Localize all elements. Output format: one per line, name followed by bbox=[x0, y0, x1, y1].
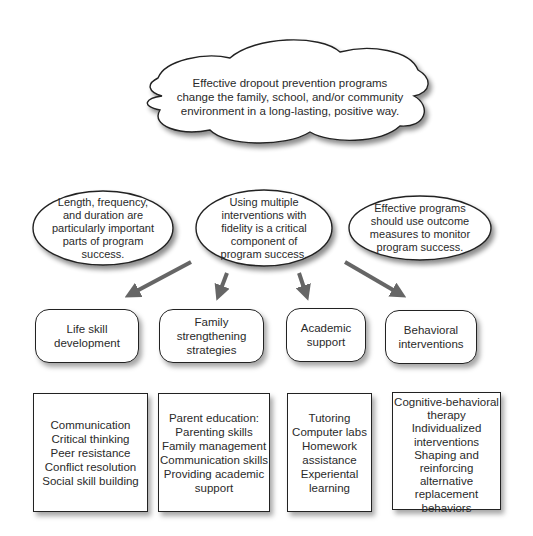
list-item: Peer resistance bbox=[51, 446, 131, 460]
list-item: Communication bbox=[51, 418, 131, 432]
list-item: Communication skills bbox=[160, 453, 268, 467]
list-item: Shaping and bbox=[414, 449, 479, 462]
list-life-skill: Communication Critical thinking Peer res… bbox=[33, 393, 148, 512]
oval-line: interventions with bbox=[222, 209, 307, 222]
list-item: reinforcing bbox=[420, 462, 474, 475]
list-item: Critical thinking bbox=[52, 432, 130, 446]
category-line: Life skill bbox=[54, 322, 120, 336]
list-item: Computer labs bbox=[292, 425, 367, 439]
list-item: Family management bbox=[162, 439, 266, 453]
list-item: interventions bbox=[414, 436, 479, 449]
list-item: Providing academic bbox=[164, 467, 264, 481]
oval-text-outcome-measures: Effective programs should use outcome me… bbox=[355, 200, 485, 256]
category-line: interventions bbox=[398, 337, 463, 351]
list-family: Parent education: Parenting skills Famil… bbox=[158, 393, 270, 512]
list-item: alternative bbox=[420, 475, 473, 488]
category-line: strengthening bbox=[177, 329, 247, 343]
oval-line: Length, frequency, bbox=[58, 196, 148, 209]
oval-line: program success. bbox=[377, 241, 464, 254]
category-line: support bbox=[301, 335, 352, 349]
list-item: Parent education: bbox=[169, 411, 259, 425]
list-behavioral: Cognitive-behavioral therapy Individuali… bbox=[392, 392, 501, 510]
list-item: Individualized bbox=[412, 422, 482, 435]
oval-line: program success. bbox=[221, 248, 308, 261]
oval-line: component of bbox=[231, 235, 298, 248]
category-life-skill: Life skill development bbox=[35, 309, 139, 363]
oval-line: and duration are bbox=[63, 209, 143, 222]
list-item: Experiental bbox=[301, 467, 359, 481]
oval-line: should use outcome bbox=[371, 215, 469, 228]
list-item: Social skill building bbox=[42, 474, 139, 488]
list-academic: Tutoring Computer labs Homework assistan… bbox=[287, 393, 372, 512]
list-item: learning bbox=[309, 481, 350, 495]
oval-text-multiple-interventions: Using multiple interventions with fideli… bbox=[200, 194, 328, 262]
oval-line: fidelity is a critical bbox=[221, 222, 307, 235]
oval-text-length-frequency: Length, frequency, and duration are part… bbox=[38, 194, 168, 262]
category-line: development bbox=[54, 336, 120, 350]
oval-line: Effective programs bbox=[374, 202, 466, 215]
arrow-to-behavioral bbox=[345, 262, 400, 294]
cloud-line: environment in a long-lasting, positive … bbox=[181, 104, 399, 118]
category-family: Family strengthening strategies bbox=[159, 309, 264, 363]
list-item: Homework bbox=[302, 439, 357, 453]
arrow-to-life-skill bbox=[131, 262, 191, 294]
list-item: replacement bbox=[415, 488, 478, 501]
list-item: therapy bbox=[427, 409, 465, 422]
cloud-line: change the family, school, and/or commun… bbox=[177, 90, 404, 104]
category-line: Family bbox=[177, 315, 247, 329]
arrow-to-family bbox=[219, 273, 227, 294]
category-line: strategies bbox=[177, 343, 247, 357]
category-behavioral: Behavioral interventions bbox=[385, 310, 477, 364]
category-academic: Academic support bbox=[286, 308, 366, 362]
oval-line: Using multiple bbox=[229, 196, 298, 209]
cloud-text: Effective dropout prevention programs ch… bbox=[160, 72, 420, 122]
list-item: Tutoring bbox=[309, 411, 351, 425]
list-item: assistance bbox=[302, 453, 356, 467]
oval-line: measures to monitor bbox=[370, 228, 470, 241]
list-item: support bbox=[195, 481, 233, 495]
list-item: Conflict resolution bbox=[45, 460, 136, 474]
category-line: Behavioral bbox=[398, 323, 463, 337]
arrow-to-academic bbox=[299, 273, 306, 294]
oval-line: particularly important bbox=[52, 222, 154, 235]
list-item: Parenting skills bbox=[175, 425, 252, 439]
cloud-line: Effective dropout prevention programs bbox=[193, 76, 388, 90]
oval-line: parts of program bbox=[63, 235, 144, 248]
list-item: Cognitive-behavioral bbox=[394, 396, 499, 409]
category-line: Academic bbox=[301, 321, 352, 335]
list-item: behaviors bbox=[422, 502, 472, 515]
oval-line: success. bbox=[82, 248, 125, 261]
